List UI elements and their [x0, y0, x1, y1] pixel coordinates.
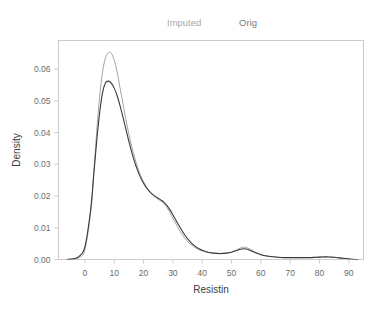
x-tick-label: 90 [344, 268, 354, 278]
plot-frame [59, 41, 364, 260]
x-tick-label: 20 [139, 268, 149, 278]
x-axis-ticks: 0102030405060708090 [83, 260, 354, 278]
x-tick-label: 50 [227, 268, 237, 278]
x-tick-label: 80 [315, 268, 325, 278]
density-plot-figure: Imputed Orig 0.000.010.020.030.040.050.0… [0, 0, 385, 309]
y-tick-label: 0.05 [34, 96, 51, 106]
x-tick-label: 30 [168, 268, 178, 278]
plot-canvas: 0.000.010.020.030.040.050.06 01020304050… [0, 0, 385, 309]
x-tick-label: 0 [83, 268, 88, 278]
x-tick-label: 40 [197, 268, 207, 278]
y-tick-label: 0.03 [34, 159, 51, 169]
y-tick-label: 0.01 [34, 223, 51, 233]
y-tick-label: 0.06 [34, 64, 51, 74]
y-tick-label: 0.04 [34, 128, 51, 138]
x-tick-label: 10 [109, 268, 119, 278]
y-axis-title: Density [11, 133, 22, 166]
y-tick-label: 0.00 [34, 255, 51, 265]
x-tick-label: 70 [285, 268, 295, 278]
x-tick-label: 60 [256, 268, 266, 278]
y-axis-ticks: 0.000.010.020.030.040.050.06 [34, 64, 59, 264]
y-tick-label: 0.02 [34, 191, 51, 201]
x-axis-title: Resistin [193, 284, 229, 295]
